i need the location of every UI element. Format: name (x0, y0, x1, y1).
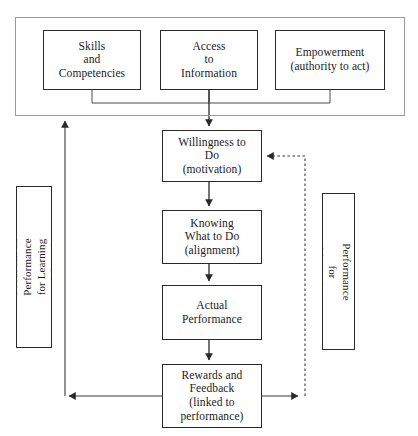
node-feedback-motivation[interactable]: Feedback on Performance for Motivation (322, 193, 355, 350)
node-rewards-and-feedback[interactable]: Rewards and Feedback (linked to performa… (162, 364, 262, 428)
node-label: Empowerment (authority to act) (290, 46, 369, 73)
node-label: Knowing What to Do (alignment) (185, 217, 240, 258)
node-skills-and-competencies[interactable]: Skills and Competencies (43, 30, 141, 90)
node-actual-performance[interactable]: Actual Performance (162, 285, 262, 340)
node-willingness-to-do[interactable]: Willingness to Do (motivation) (162, 130, 262, 182)
node-label: Feedback on Performance for Motivation (322, 243, 355, 300)
node-empowerment[interactable]: Empowerment (authority to act) (275, 30, 385, 90)
node-label: Feedback on Performance for Learning and… (16, 238, 52, 295)
node-label: Access to Information (181, 40, 237, 81)
node-feedback-learning-growth[interactable]: Feedback on Performance for Learning and… (16, 186, 52, 348)
performance-flow-diagram: Skills and Competencies Access to Inform… (0, 0, 418, 436)
node-label: Actual Performance (182, 299, 242, 326)
node-knowing-what-to-do[interactable]: Knowing What to Do (alignment) (162, 210, 262, 264)
node-label: Willingness to Do (motivation) (178, 136, 246, 177)
node-label: Skills and Competencies (59, 40, 125, 81)
node-label: Rewards and Feedback (linked to performa… (180, 369, 243, 423)
node-access-to-information[interactable]: Access to Information (160, 30, 258, 90)
